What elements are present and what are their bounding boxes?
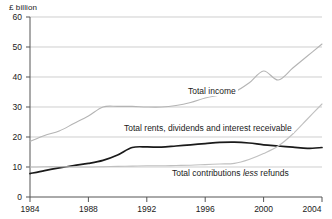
y-tick-marks (26, 17, 30, 197)
y-tick-label-60: 60 (0, 12, 22, 22)
line-chart: £ billion (0, 0, 332, 219)
annotation-total-rents: Total rents, dividends and interest rece… (122, 123, 294, 133)
y-tick-label-10: 10 (0, 162, 22, 172)
x-tick-label-1988: 1988 (68, 204, 108, 214)
annotation-total-rents-text: Total rents, dividends and interest rece… (124, 123, 292, 133)
annotation-total-contributions-post: refunds (258, 168, 289, 178)
x-tick-label-1996: 1996 (185, 204, 225, 214)
y-tick-label-50: 50 (0, 42, 22, 52)
series-line-2 (30, 104, 322, 167)
x-tick-label-2000: 2000 (244, 204, 284, 214)
annotation-total-income: Total income (186, 86, 238, 96)
plot-area (0, 0, 332, 219)
y-tick-label-30: 30 (0, 102, 22, 112)
x-tick-label-1992: 1992 (127, 204, 167, 214)
annotation-total-contributions-emphasis: less (243, 168, 258, 178)
series-lines (30, 44, 322, 174)
y-tick-label-40: 40 (0, 72, 22, 82)
x-tick-marks (30, 197, 322, 202)
annotation-total-income-text: Total income (188, 86, 236, 96)
x-tick-label-1984: 1984 (10, 204, 50, 214)
y-tick-label-0: 0 (0, 192, 22, 202)
annotation-total-contributions-pre: Total contributions (172, 168, 243, 178)
x-tick-label-2004: 2004 (292, 204, 332, 214)
gridlines (30, 17, 322, 167)
annotation-total-contributions: Total contributions less refunds (170, 168, 291, 178)
y-tick-label-20: 20 (0, 132, 22, 142)
